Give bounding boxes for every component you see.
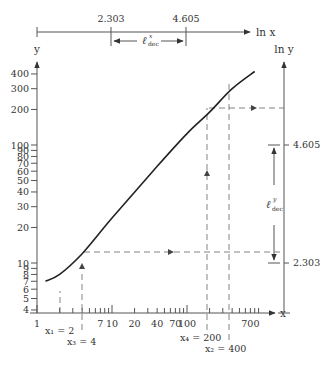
- y-tick-label: 200: [11, 104, 29, 115]
- ln-x-tick-4605: 4.605: [172, 13, 199, 24]
- ln-y-decade-label: ℓ: [266, 198, 271, 210]
- ln-y-decade-sup: y: [272, 195, 277, 203]
- x-tick-label: 40: [151, 318, 163, 329]
- x-tick-label: 100: [178, 318, 196, 329]
- ln-y-label: ln y: [274, 43, 293, 55]
- x-tick-label: 7: [97, 318, 103, 329]
- data-curve: [46, 72, 255, 282]
- log-plot-diagram: 2.303 4.605 ln x ℓ x dec y 4567891020304…: [0, 0, 330, 365]
- ln-y-axis: ln y 4.605 2.303 ℓ y dec: [266, 43, 320, 313]
- ln-x-decade-sup: x: [149, 32, 153, 39]
- y-axis: y 456789102030405060708090100200300400: [11, 43, 40, 315]
- y-tick-label: 100: [11, 140, 29, 151]
- x3-annotation: x₃ = 4: [67, 336, 96, 347]
- y-tick-labels: 456789102030405060708090100200300400: [11, 68, 37, 315]
- y-tick-label: 4: [23, 304, 29, 315]
- x4-annotation: x₄ = 200: [180, 332, 221, 343]
- y-tick-label: 20: [17, 222, 29, 233]
- ln-y-decade-sub: dec: [272, 205, 283, 212]
- y-tick-label: 10: [17, 258, 29, 269]
- guide-lines: [60, 84, 284, 340]
- guide-arrows: [79, 105, 257, 269]
- x2-annotation: x₂ = 400: [205, 343, 246, 354]
- x-tick-label: 20: [129, 318, 141, 329]
- ln-y-tick-4605: 4.605: [293, 139, 320, 150]
- x-tick-label: 10: [106, 318, 118, 329]
- ln-x-tick-2303: 2.303: [97, 13, 124, 24]
- x-tick-marks: [37, 305, 259, 313]
- y-tick-label: 400: [11, 68, 29, 79]
- y-axis-label: y: [33, 43, 40, 55]
- ln-x-label: ln x: [256, 26, 275, 38]
- ln-x-decade-sub: dec: [148, 40, 159, 47]
- y-tick-label: 300: [11, 83, 29, 94]
- ln-x-decade-label: ℓ: [142, 34, 147, 46]
- x-tick-label: 700: [241, 318, 259, 329]
- y-tick-label: 30: [17, 201, 29, 212]
- ln-x-axis: 2.303 4.605 ln x ℓ x dec: [37, 13, 275, 47]
- y-tick-label: 40: [17, 186, 29, 197]
- ln-y-tick-2303: 2.303: [293, 257, 320, 268]
- x-tick-label: 1: [34, 318, 40, 329]
- x1-annotation: x₁ = 2: [45, 325, 74, 336]
